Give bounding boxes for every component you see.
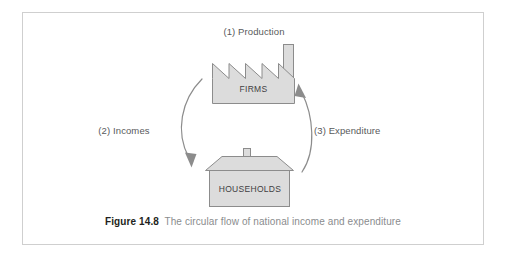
figure-caption-text: The circular flow of national income and… — [165, 216, 401, 227]
flow-label-incomes: (2) Incomes — [62, 126, 186, 136]
figure-caption-number: Figure 14.8 — [105, 216, 159, 227]
figure-container: (1) Production (2) Incomes (3) Expenditu… — [0, 0, 508, 265]
households-label: HOUSEHOLDS — [209, 184, 291, 194]
flow-label-production: (1) Production — [0, 27, 508, 37]
flow-label-expenditure: (3) Expenditure — [314, 126, 464, 136]
figure-caption: Figure 14.8 The circular flow of nationa… — [22, 216, 484, 227]
firms-label: FIRMS — [212, 84, 295, 94]
